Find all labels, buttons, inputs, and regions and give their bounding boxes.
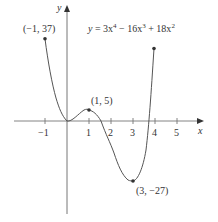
annotation-label: (−1, 37) (23, 23, 55, 35)
point-marker (87, 108, 91, 112)
annotation-label: (1, 5) (91, 95, 113, 107)
x-axis-arrow-icon (197, 118, 204, 124)
x-tick-label: 5 (174, 127, 179, 138)
point-marker (131, 179, 135, 183)
annotation-label: (3, −27) (136, 185, 168, 197)
x-tick-label: 2 (108, 127, 113, 138)
chart: −1 1 2 3 4 5 x y (−1, 37) (1, 5) (3, −27… (0, 0, 218, 222)
equation-label: y = 3x4 − 16x3 + 18x2 (87, 22, 175, 34)
y-axis-label: y (56, 2, 62, 13)
curve-path (45, 39, 154, 181)
x-tick-label: 4 (152, 127, 157, 138)
x-axis-label: x (197, 125, 203, 136)
x-tick-label: −1 (38, 127, 49, 138)
x-tick-label: 1 (86, 127, 91, 138)
y-axis-arrow-icon (64, 5, 70, 12)
x-tick-label: 3 (130, 127, 135, 138)
point-marker (43, 37, 47, 41)
point-marker (152, 47, 156, 51)
